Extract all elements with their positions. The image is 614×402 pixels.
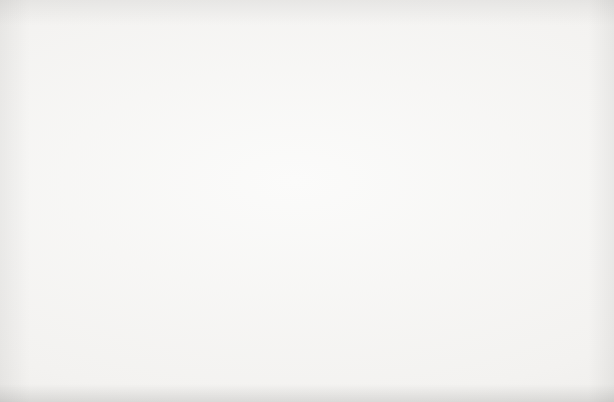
as-curve-label: AS2014 <box>523 14 554 31</box>
data-point <box>219 254 224 259</box>
x-tick-label: 15.0 <box>472 345 496 359</box>
data-point <box>433 111 438 116</box>
data-point <box>509 74 514 79</box>
x-axis-title: Real GDP <box>468 359 524 373</box>
data-point <box>102 318 107 323</box>
data-point <box>328 150 333 155</box>
y-tick-label: 40 <box>38 238 52 252</box>
as-curve-subscript: 2014 <box>538 22 554 31</box>
annotation-leader <box>202 252 210 258</box>
y-tick-label: 60 <box>38 189 52 203</box>
annotation-label: 1933 <box>69 326 96 340</box>
annotation-label: 1929 <box>92 289 119 303</box>
x-tick-label: 6.0 <box>222 348 239 362</box>
data-point <box>298 177 303 182</box>
x-tick-label: 9.0 <box>307 347 324 361</box>
data-point <box>346 142 351 147</box>
x-axis-line <box>62 337 606 344</box>
annotation-leader <box>450 82 464 89</box>
ad-curve <box>503 33 537 70</box>
annotation-label: 1991 <box>288 161 315 175</box>
data-point <box>251 200 256 205</box>
annotation-label: 1960 <box>145 301 172 315</box>
data-point <box>159 294 164 299</box>
as-ad-scatter-chart: 020406080100120 0.03.06.09.012.015.018.0… <box>0 0 614 402</box>
data-point <box>149 295 154 300</box>
data-point <box>370 135 375 140</box>
data-point <box>477 81 482 86</box>
data-point <box>339 146 344 151</box>
x-tick-label: 12.0 <box>388 346 412 360</box>
data-point <box>131 300 136 305</box>
y-tick-label: 0 <box>45 337 52 351</box>
caption-fragment: and red points are years <box>18 0 128 4</box>
y-axis-title: Price level (2009 = 100) <box>11 164 25 296</box>
annotation-label: 1950 <box>100 271 127 285</box>
data-point <box>400 129 405 134</box>
data-point <box>384 132 389 137</box>
data-point <box>281 187 286 192</box>
y-tick-label: 120 <box>31 41 52 55</box>
data-point <box>211 266 216 271</box>
data-point <box>241 234 246 239</box>
caption-strip: and red points are years <box>0 0 614 13</box>
annotation-label: 1940 <box>116 319 143 333</box>
data-point <box>226 249 231 254</box>
data-point <box>478 86 483 91</box>
y-tick-label: 20 <box>38 287 52 301</box>
data-point <box>165 293 170 298</box>
data-point <box>182 289 187 294</box>
data-point <box>122 313 127 318</box>
y-axis-ticks: 020406080100120 <box>31 41 63 351</box>
data-point <box>466 94 471 99</box>
data-point <box>273 190 278 195</box>
data-point <box>235 242 240 247</box>
annotation-label: 1974 <box>232 260 259 274</box>
annotation-label: 1975 <box>172 245 199 259</box>
data-point <box>498 78 503 83</box>
data-point <box>460 99 465 104</box>
data-point <box>211 259 216 264</box>
data-point <box>203 275 208 280</box>
as-ad-curve-group <box>503 33 537 72</box>
data-point <box>121 305 126 310</box>
x-axis-subtitle: (Trillions of 2009 Dollars) <box>427 374 565 388</box>
annotation-group: 1929193319401950196019701974197519801982… <box>69 75 464 340</box>
ad-curve-subscript: 2014 <box>555 66 571 75</box>
y-tick-label: 100 <box>31 90 52 104</box>
axes <box>62 27 606 344</box>
data-point <box>155 294 160 299</box>
annotation-label: 1970 <box>214 282 241 296</box>
data-point <box>483 86 488 91</box>
data-point-group <box>82 74 514 326</box>
y-axis-line <box>62 27 63 344</box>
ad-curve-label: AD2014 <box>537 58 571 75</box>
x-tick-label: 18.0 <box>557 344 581 358</box>
data-point <box>417 119 422 124</box>
data-point <box>492 81 497 86</box>
data-point <box>288 183 293 188</box>
data-point <box>212 272 217 277</box>
x-tick-label: 3.0 <box>138 349 155 363</box>
data-point <box>447 105 452 110</box>
data-point <box>171 292 176 297</box>
annotation-label: 2000 <box>434 141 461 155</box>
annotation-label: 1982 <box>221 201 248 215</box>
x-tick-label: 0.0 <box>53 350 70 364</box>
data-point <box>413 124 418 129</box>
data-point <box>476 91 481 96</box>
data-point <box>471 92 476 97</box>
annotation-label: 1980 <box>218 218 245 232</box>
annotation-label: 2009 <box>420 75 447 89</box>
y-tick-label: 80 <box>38 139 52 153</box>
data-point <box>357 138 362 143</box>
data-point <box>95 319 100 324</box>
data-point <box>265 195 270 200</box>
data-point <box>423 115 428 120</box>
data-point <box>321 154 326 159</box>
